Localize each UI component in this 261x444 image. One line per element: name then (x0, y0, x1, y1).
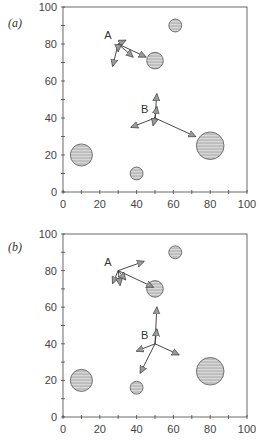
panel-a: (a) 020406080100020406080100AB (0, 0, 261, 222)
y-tick-label: 100 (39, 228, 57, 240)
vector-arrow (118, 261, 144, 270)
x-tick-label: 0 (60, 198, 66, 210)
vector-arrow (118, 40, 125, 44)
vector-arrow (118, 44, 133, 57)
obstacle-circle (70, 369, 92, 391)
x-tick-label: 80 (204, 423, 216, 435)
vector-arrow (113, 271, 119, 284)
y-tick-label: 0 (51, 186, 57, 198)
scatter-plot-a: 020406080100020406080100AB (0, 0, 261, 222)
point-label-b: B (141, 103, 148, 115)
scatter-plot-b: 020406080100020406080100AB (0, 222, 261, 444)
panel-label: (a) (8, 16, 22, 31)
obstacle-circle (169, 246, 182, 259)
x-tick-label: 80 (204, 198, 216, 210)
vector-arrow (131, 118, 155, 127)
x-tick-label: 40 (130, 423, 142, 435)
obstacle-circle (196, 357, 224, 385)
x-tick-label: 100 (238, 423, 256, 435)
vector-arrow (155, 118, 195, 137)
panel-label: (b) (8, 240, 22, 255)
y-tick-label: 80 (45, 265, 57, 277)
vector-arrow (155, 344, 179, 355)
x-tick-label: 60 (167, 423, 179, 435)
vector-arrow (153, 118, 155, 125)
y-tick-label: 60 (45, 301, 57, 313)
point-label-b: B (141, 329, 148, 341)
obstacle-circle (169, 19, 182, 32)
obstacle-circle (196, 132, 224, 160)
vector-arrow (113, 44, 119, 66)
y-tick-label: 40 (45, 338, 57, 350)
y-tick-label: 60 (45, 75, 57, 87)
x-tick-label: 20 (94, 423, 106, 435)
x-tick-label: 100 (238, 198, 256, 210)
x-tick-label: 40 (130, 198, 142, 210)
x-tick-label: 20 (94, 198, 106, 210)
y-tick-label: 100 (39, 1, 57, 13)
y-tick-label: 80 (45, 38, 57, 50)
y-tick-label: 20 (45, 149, 57, 161)
vector-arrow (118, 44, 146, 57)
obstacle-circle (70, 144, 92, 166)
plot-frame (63, 234, 247, 417)
x-tick-label: 60 (167, 198, 179, 210)
obstacle-circle (130, 381, 143, 394)
x-tick-label: 0 (60, 423, 66, 435)
y-tick-label: 0 (51, 411, 57, 423)
panel-b: (b) 020406080100020406080100AB (0, 222, 261, 444)
point-label-a: A (104, 256, 112, 268)
point-label-a: A (104, 29, 112, 41)
obstacle-circle (130, 167, 143, 180)
y-tick-label: 40 (45, 112, 57, 124)
y-tick-label: 20 (45, 374, 57, 386)
vector-arrow (140, 344, 155, 373)
plot-frame (63, 7, 247, 192)
vector-arrow (118, 271, 153, 287)
obstacle-circle (147, 281, 164, 298)
obstacle-circle (147, 52, 164, 69)
